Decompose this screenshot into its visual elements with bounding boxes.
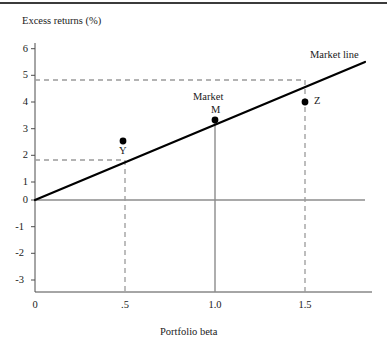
data-point-label-y: Y xyxy=(119,146,127,157)
data-point-label-z: Z xyxy=(314,96,320,107)
y-tick-label-neg2: -2 xyxy=(8,248,24,259)
data-point-z xyxy=(302,99,309,106)
y-tick-label-5: 5 xyxy=(12,70,28,81)
data-point-label-m: M xyxy=(211,105,220,116)
x-tick-label-0p5: .5 xyxy=(110,300,140,311)
market-line-annotation: Market line xyxy=(310,50,359,61)
y-axis-ticks xyxy=(31,49,35,280)
data-point-m xyxy=(212,117,219,124)
y-tick-label-0: 0 xyxy=(12,195,28,206)
market-line-series xyxy=(35,62,365,200)
y-tick-label-6: 6 xyxy=(12,44,28,55)
figure-canvas: Excess returns (%) Portfolio beta 6 5 4 … xyxy=(0,0,387,344)
y-axis-title: Excess returns (%) xyxy=(22,16,101,27)
y-tick-label-neg1: -1 xyxy=(8,222,24,233)
x-tick-label-0: 0 xyxy=(20,300,50,311)
y-tick-label-1: 1 xyxy=(12,177,28,188)
x-axis-title: Portfolio beta xyxy=(160,327,217,338)
x-tick-label-1p5: 1.5 xyxy=(290,300,320,311)
market-point-caption: Market xyxy=(193,92,223,103)
y-tick-label-2: 2 xyxy=(12,150,28,161)
data-point-y xyxy=(120,138,127,145)
y-tick-label-4: 4 xyxy=(12,97,28,108)
x-tick-label-1p0: 1.0 xyxy=(200,300,230,311)
y-tick-label-3: 3 xyxy=(12,124,28,135)
y-tick-label-neg3: -3 xyxy=(8,275,24,286)
